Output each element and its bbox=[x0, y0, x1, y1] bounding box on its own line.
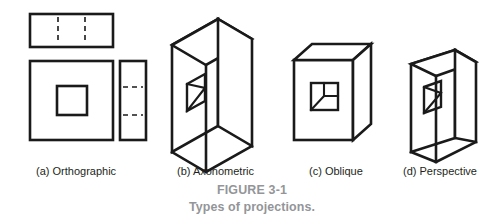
label-oblique: (c) Oblique bbox=[309, 162, 363, 180]
figure-title: Types of projections. bbox=[136, 198, 368, 215]
front-view bbox=[30, 61, 113, 140]
label-axonometric: (b) Axonometric bbox=[177, 162, 254, 180]
figure-caption: FIGURE 3-1 Types of projections. bbox=[126, 182, 378, 215]
panel-labels: (a) Orthographic (b) Axonometric (c) Obl… bbox=[0, 162, 504, 180]
label-orthographic: (a) Orthographic bbox=[36, 162, 116, 180]
perspective-view bbox=[411, 50, 476, 162]
top-view bbox=[30, 14, 113, 47]
oblique-view bbox=[294, 44, 371, 140]
figure-number: FIGURE 3-1 bbox=[136, 182, 368, 198]
figure-container: (a) Orthographic (b) Axonometric (c) Obl… bbox=[0, 0, 504, 224]
label-perspective: (d) Perspective bbox=[403, 162, 477, 180]
side-view bbox=[120, 61, 146, 140]
axonometric-view bbox=[172, 19, 252, 172]
orthographic-views bbox=[30, 14, 146, 140]
